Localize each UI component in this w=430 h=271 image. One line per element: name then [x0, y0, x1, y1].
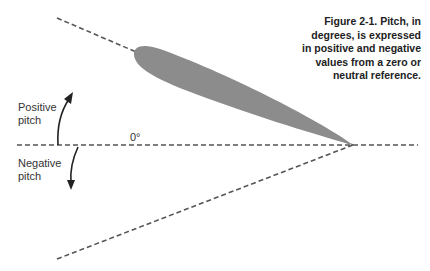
positive-pitch-arrow-icon	[58, 92, 73, 145]
positive-label-line-2: pitch	[18, 114, 57, 127]
caption-line: in positive and negative	[231, 42, 421, 56]
caption-line: neutral reference.	[231, 69, 421, 83]
negative-label-line-2: pitch	[18, 170, 61, 183]
caption-line: degrees, is expressed	[231, 29, 421, 43]
figure-caption: Figure 2-1. Pitch, in degrees, is expres…	[231, 15, 421, 83]
caption-line: values from a zero or	[231, 56, 421, 70]
negative-pitch-arrow-icon	[67, 147, 78, 190]
zero-degree-label: 0°	[130, 131, 141, 144]
positive-pitch-label: Positive pitch	[18, 101, 57, 127]
negative-label-line-1: Negative	[18, 157, 61, 170]
negative-pitch-line	[57, 145, 353, 259]
negative-pitch-label: Negative pitch	[18, 157, 61, 183]
positive-label-line-1: Positive	[18, 101, 57, 114]
caption-line: Figure 2-1. Pitch, in	[231, 15, 421, 29]
